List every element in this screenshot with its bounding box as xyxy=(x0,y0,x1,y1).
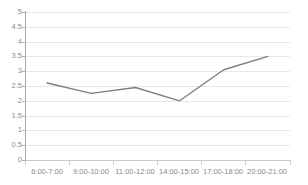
gridline xyxy=(25,27,290,28)
y-tick-label-0: 0 xyxy=(0,156,22,164)
x-tick-mark xyxy=(201,161,202,165)
y-tick-label-2.5: 2.5 xyxy=(0,82,22,90)
x-tick-label-5: 20:00-21:00 xyxy=(247,167,287,176)
y-tick-mark xyxy=(22,27,26,28)
gridline xyxy=(25,56,290,57)
x-tick-label-2: 11:00-12:00 xyxy=(115,167,154,176)
y-tick-mark xyxy=(22,71,26,72)
x-tick-mark xyxy=(157,161,158,165)
y-tick-label-4.5: 4.5 xyxy=(0,23,22,31)
x-tick-mark xyxy=(69,161,70,165)
y-tick-mark xyxy=(22,42,26,43)
y-tick-mark xyxy=(22,130,26,131)
y-tick-label-1.5: 1.5 xyxy=(0,112,22,120)
x-tick-mark xyxy=(113,161,114,165)
x-tick-mark xyxy=(25,161,26,165)
y-tick-label-3.5: 3.5 xyxy=(0,52,22,60)
y-tick-mark xyxy=(22,145,26,146)
y-tick-label-5: 5 xyxy=(0,8,22,16)
gridline xyxy=(25,130,290,131)
y-tick-label-4: 4 xyxy=(0,38,22,46)
x-tick-mark xyxy=(290,161,291,165)
y-tick-mark xyxy=(22,101,26,102)
y-tick-mark xyxy=(22,86,26,87)
gridline xyxy=(25,42,290,43)
gridline xyxy=(25,116,290,117)
gridline xyxy=(25,12,290,13)
x-tick-label-4: 17:00-18:00 xyxy=(203,167,243,176)
x-tick-mark xyxy=(245,161,246,165)
gridline xyxy=(25,145,290,146)
line-chart: 5 4.5 4 3.5 3 2.5 2 1.5 1 0.5 0 6:00-7:0… xyxy=(0,0,308,185)
y-tick-label-0.5: 0.5 xyxy=(0,141,22,149)
y-tick-mark xyxy=(22,56,26,57)
y-tick-label-3: 3 xyxy=(0,67,22,75)
plot-area xyxy=(25,12,290,160)
x-tick-label-1: 9:00-10:00 xyxy=(73,167,109,176)
y-tick-label-2: 2 xyxy=(0,97,22,105)
x-axis-line xyxy=(25,160,291,161)
y-tick-label-1: 1 xyxy=(0,126,22,134)
gridline xyxy=(25,71,290,72)
x-tick-label-3: 14:00-15:00 xyxy=(159,167,199,176)
x-tick-label-0: 6:00-7:00 xyxy=(31,167,63,176)
gridline xyxy=(25,86,290,87)
y-tick-mark xyxy=(22,12,26,13)
gridline xyxy=(25,101,290,102)
y-tick-mark xyxy=(22,116,26,117)
